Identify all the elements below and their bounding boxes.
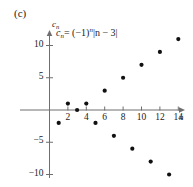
y-tick-label--5: −5 — [6, 135, 44, 145]
data-point-n10 — [139, 63, 143, 67]
figure-panel-c: (c) cn n cn= (−1)n|n − 3| 2468101214−10−… — [0, 0, 193, 187]
data-point-n12 — [158, 50, 162, 54]
y-axis-arrowhead — [47, 30, 53, 36]
data-point-n6 — [103, 89, 107, 93]
data-point-n2 — [66, 101, 70, 105]
data-point-n14 — [176, 37, 180, 41]
y-tick-label--10: −10 — [6, 168, 44, 178]
y-tick-label-5: 5 — [6, 71, 44, 81]
formula-absolute: |n − 3| — [93, 27, 118, 38]
y-tick-label-10: 10 — [6, 39, 44, 49]
formula-annotation: cn= (−1)n|n − 3| — [56, 26, 118, 40]
data-point-n11 — [149, 160, 153, 164]
data-point-n7 — [112, 134, 116, 138]
data-point-n9 — [130, 147, 134, 151]
x-tick-label-14: 14 — [166, 112, 190, 122]
data-point-n8 — [121, 76, 125, 80]
formula-equals: = (−1) — [64, 27, 89, 38]
data-point-n13 — [167, 172, 171, 176]
data-point-n4 — [84, 101, 88, 105]
